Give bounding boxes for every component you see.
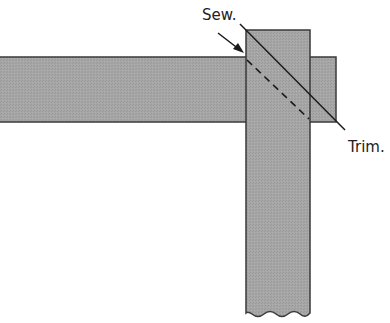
sew-label: Sew. bbox=[202, 6, 236, 24]
vertical-strip bbox=[246, 30, 310, 317]
strip-joining-diagram: Sew. Trim. bbox=[0, 0, 390, 323]
trim-label: Trim. bbox=[347, 138, 385, 156]
sew-arrow-icon bbox=[218, 33, 244, 53]
